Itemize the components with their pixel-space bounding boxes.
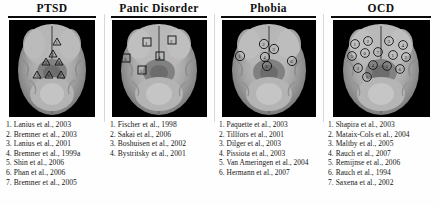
title-underline-ptsd (8, 16, 96, 18)
reference-item: 3. Maltby et al., 2005 (328, 139, 439, 149)
reference-item: 1. Paquette et al., 2003 (219, 120, 323, 130)
brain-scan-svg-panic-disorder: 1 2 3 4 5 (112, 20, 207, 117)
title-underline-panic-disorder (111, 16, 207, 18)
brain-scan-svg-phobia: 1 2 3 4 5 6 (222, 20, 316, 117)
panel-ocd: OCD (323, 0, 439, 205)
panel-title-ocd: OCD (368, 2, 395, 15)
reference-item: 5. Shin et al., 2006 (6, 158, 104, 168)
reference-item: 2. Mataix-Cols et al., 2004 (328, 130, 439, 140)
reference-item: 4. Bystritsky et al., 2001 (110, 149, 214, 159)
reference-item: 2. Sakai et al., 2006 (110, 130, 214, 140)
brain-scan-svg-ptsd: 1 2 3 4 5 6 7 (9, 20, 95, 117)
reference-list-phobia: 1. Paquette et al., 2003 2. Tillfors et … (214, 120, 323, 178)
panel-title-phobia: Phobia (250, 2, 287, 15)
reference-item: 6. Hermann et al., 2007 (219, 168, 323, 178)
panel-phobia: Phobia (214, 0, 323, 205)
reference-item: 7. Saxena et al., 2002 (328, 178, 439, 188)
panel-panic-disorder: Panic Disorder (104, 0, 214, 205)
brain-image-ocd: 1 2 3 4 5 6 7 1 2 3 4 5 6 7 (333, 20, 430, 117)
reference-item: 3. Lanius et al., 2001 (6, 139, 104, 149)
brain-scan-svg-ocd: 1 2 3 4 5 6 7 1 2 3 4 5 6 7 (333, 20, 430, 117)
brain-image-phobia: 1 2 3 4 5 6 (222, 20, 316, 117)
reference-item: 2. Bremner et al., 2003 (6, 130, 104, 140)
reference-item: 6. Phan et al., 2006 (6, 168, 104, 178)
brain-image-panic-disorder: 1 2 3 4 5 (112, 20, 207, 117)
reference-list-ptsd: 1. Lanius et al., 2003 2. Bremner et al.… (0, 120, 104, 187)
title-underline-ocd (331, 16, 431, 18)
brain-image-ptsd: 1 2 3 4 5 6 7 (9, 20, 95, 117)
reference-list-panic-disorder: 1. Fischer et al., 1998 2. Sakai et al.,… (104, 120, 214, 158)
panel-title-ptsd: PTSD (37, 2, 68, 15)
reference-item: 3. Dilger et al., 2003 (219, 139, 323, 149)
reference-item: 5. Van Ameringen et al., 2004 (219, 158, 323, 168)
reference-item: 4. Pissiota et al., 2003 (219, 149, 323, 159)
reference-item: 7. Bremner et al., 2005 (6, 178, 104, 188)
reference-item: 5. Remijnse et al., 2006 (328, 158, 439, 168)
anxiety-disorders-neuroimaging-figure: PTSD (0, 0, 439, 205)
reference-item: 1. Lanius et al., 2003 (6, 120, 104, 130)
panel-title-panic-disorder: Panic Disorder (119, 2, 198, 15)
reference-list-ocd: 1. Shapira et al., 2003 2. Mataix-Cols e… (323, 120, 439, 187)
reference-item: 4. Bremner et al., 1999a (6, 149, 104, 159)
reference-item: 1. Shapira et al., 2003 (328, 120, 439, 130)
reference-item: 2. Tillfors et al., 2001 (219, 130, 323, 140)
panel-ptsd: PTSD (0, 0, 104, 205)
reference-item: 1. Fischer et al., 1998 (110, 120, 214, 130)
title-underline-phobia (221, 16, 316, 18)
reference-item: 4. Rauch et al., 2007 (328, 149, 439, 159)
reference-item: 6. Rauch et al., 1994 (328, 168, 439, 178)
reference-item: 3. Boshuisen et al., 2002 (110, 139, 214, 149)
